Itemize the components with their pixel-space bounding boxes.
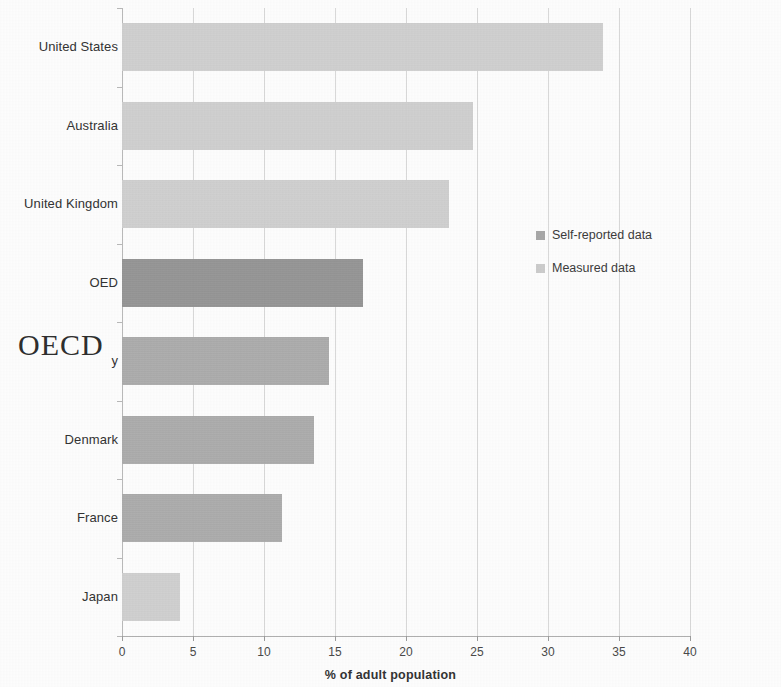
- category-label: United States: [0, 39, 118, 54]
- x-axis-tick-label: 25: [457, 645, 497, 659]
- legend-item-measured: Measured data: [536, 261, 652, 275]
- bar: [122, 416, 314, 464]
- x-axis-tick: [406, 636, 407, 641]
- x-axis-tick: [193, 636, 194, 641]
- bar: [122, 102, 473, 150]
- x-axis-tick-label: 0: [102, 645, 142, 659]
- category-label: Denmark: [0, 432, 118, 447]
- x-axis-tick: [548, 636, 549, 641]
- x-axis-tick-label: 10: [244, 645, 284, 659]
- x-axis-tick: [690, 636, 691, 641]
- x-axis-tick-label: 15: [315, 645, 355, 659]
- category-labels: United StatesAustraliaUnited KingdomOEDy…: [0, 8, 118, 636]
- bar: [122, 494, 282, 542]
- legend-label: Measured data: [552, 261, 635, 275]
- x-axis-tick: [619, 636, 620, 641]
- category-label: Australia: [0, 118, 118, 133]
- legend-swatch-icon: [536, 264, 545, 273]
- category-label: OED: [0, 275, 118, 290]
- category-label: Japan: [0, 589, 118, 604]
- x-axis-tick: [264, 636, 265, 641]
- bar: [122, 259, 363, 307]
- bar: [122, 23, 603, 71]
- category-label: United Kingdom: [0, 196, 118, 211]
- legend-label: Self-reported data: [552, 228, 652, 242]
- x-axis-tick-label: 5: [173, 645, 213, 659]
- bar: [122, 573, 180, 621]
- oecd-overlay-text: OECD: [18, 328, 104, 362]
- y-axis-tick: [117, 636, 122, 637]
- bars-layer: [122, 8, 690, 636]
- x-axis-title: % of adult population: [0, 668, 781, 682]
- legend: Self-reported data Measured data: [536, 228, 652, 294]
- gridline: [690, 8, 691, 636]
- category-label: France: [0, 510, 118, 525]
- x-axis-tick: [335, 636, 336, 641]
- x-axis-tick-label: 40: [670, 645, 710, 659]
- legend-item-self-reported: Self-reported data: [536, 228, 652, 242]
- legend-swatch-icon: [536, 231, 545, 240]
- x-axis-tick: [477, 636, 478, 641]
- bar: [122, 337, 329, 385]
- bar-chart: United StatesAustraliaUnited KingdomOEDy…: [0, 0, 781, 687]
- x-axis-tick-label: 20: [386, 645, 426, 659]
- x-axis-tick-label: 35: [599, 645, 639, 659]
- x-axis-tick-label: 30: [528, 645, 568, 659]
- x-axis-tick: [122, 636, 123, 641]
- bar: [122, 180, 449, 228]
